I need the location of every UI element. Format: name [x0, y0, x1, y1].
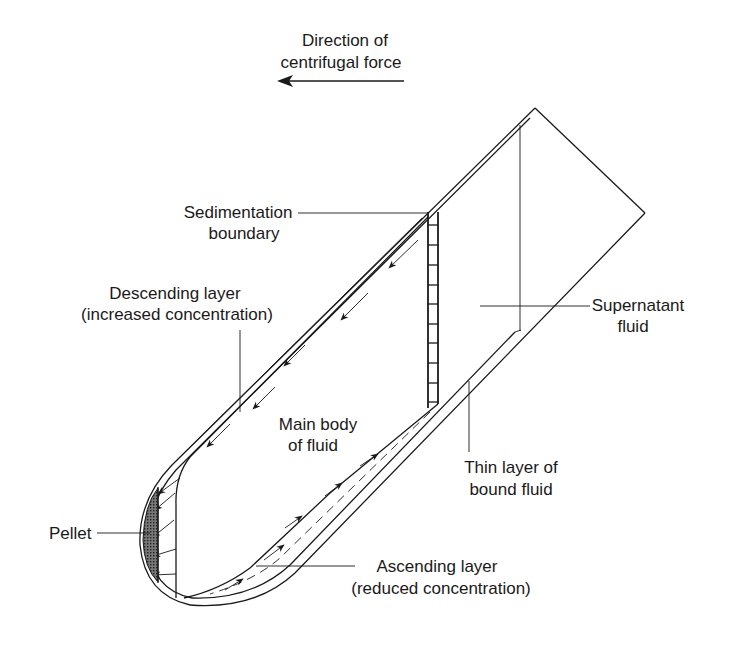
direction-title-line2: centrifugal force: [281, 53, 402, 72]
direction-title-line1: Direction of: [302, 31, 388, 50]
main-body-outline: [176, 217, 428, 598]
centrifuge-tube: [140, 108, 645, 606]
sedimentation-boundary: [428, 212, 438, 408]
label-supernatant-2: fluid: [617, 317, 648, 336]
label-descending-1: Descending layer: [109, 284, 241, 303]
label-sedimentation-1: Sedimentation: [184, 203, 293, 222]
label-pellet: Pellet: [49, 524, 92, 543]
arrow-left-icon: [277, 75, 404, 87]
label-supernatant-1: Supernatant: [592, 296, 685, 315]
label-sedimentation-2: boundary: [209, 224, 280, 243]
label-descending-2: (increased concentration): [81, 305, 273, 324]
centrifuge-tube-diagram: Direction of centrifugal force: [0, 0, 744, 647]
label-thin-layer-2: bound fluid: [469, 480, 552, 499]
label-main-body-1: Main body: [279, 415, 358, 434]
label-main-body-2: of fluid: [288, 436, 338, 455]
label-ascending-1: Ascending layer: [377, 557, 498, 576]
label-thin-layer-1: Thin layer of: [464, 458, 558, 477]
label-ascending-2: (reduced concentration): [351, 579, 531, 598]
